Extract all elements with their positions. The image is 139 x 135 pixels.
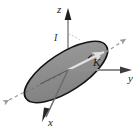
z-axis-label: z <box>56 3 62 15</box>
inclination-angle-label: I <box>53 32 58 43</box>
k-vector-label: K <box>92 56 101 68</box>
x-axis-label: x <box>47 116 53 128</box>
y-axis-label: y <box>127 72 133 84</box>
diagram-canvas: z y x K I <box>0 0 139 135</box>
z-axis-arrowhead <box>65 8 72 20</box>
inclination-arc <box>68 34 80 40</box>
inclined-disk <box>15 30 116 114</box>
figure-container: z y x K I <box>0 0 139 135</box>
